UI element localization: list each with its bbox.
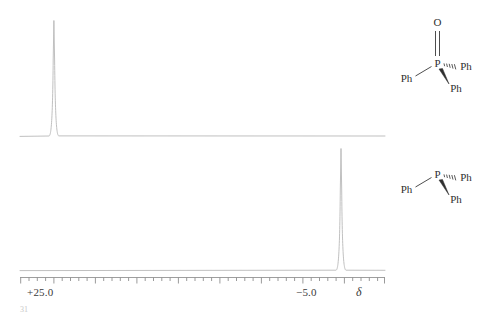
structure-triphenylphosphine: P Ph Ph Ph <box>398 160 489 222</box>
p-ph-hashed-wedge <box>444 174 456 180</box>
p-o-double-bond <box>436 31 440 56</box>
axis-delta-symbol: δ <box>356 285 362 300</box>
phosphorus-label: P <box>434 168 440 180</box>
top-spectrum-trace <box>20 21 385 137</box>
ph-left-label: Ph <box>401 183 413 195</box>
axis-tick-label-right: −5.0 <box>296 286 317 298</box>
ph-right-label: Ph <box>460 171 472 183</box>
caption-fragment: 31 <box>20 305 28 314</box>
oxygen-label: O <box>434 16 442 28</box>
p-ph-bold-wedge <box>439 69 449 85</box>
bottom-spectrum-trace <box>20 149 385 271</box>
structure-triphenylphosphine-oxide: O P Ph Ph Ph <box>398 14 489 96</box>
phosphorus-label: P <box>434 57 440 69</box>
chemical-shift-axis <box>20 278 385 284</box>
p-ph-plain-bond <box>416 67 432 77</box>
p-ph-hashed-wedge <box>444 63 456 69</box>
ph-left-label: Ph <box>401 72 413 84</box>
axis-ticks <box>21 278 385 284</box>
nmr-figure: +25.0 −5.0 δ 31 O P Ph P <box>0 0 489 315</box>
ph-down-label: Ph <box>450 193 462 205</box>
p-ph-bold-wedge <box>439 180 449 196</box>
axis-tick-label-left: +25.0 <box>27 286 53 298</box>
p-ph-plain-bond <box>416 178 432 188</box>
ph-down-label: Ph <box>450 82 462 94</box>
ph-right-label: Ph <box>460 60 472 72</box>
